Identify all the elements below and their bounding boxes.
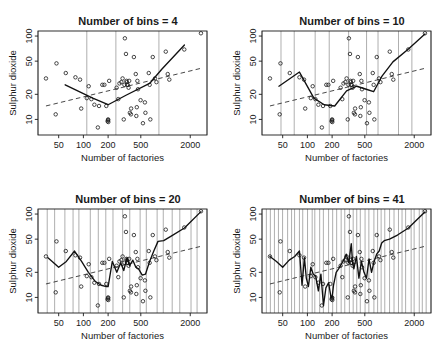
data-point [371,71,375,75]
data-point [144,111,148,115]
x-axis-label: Number of factories [305,152,388,163]
binned-fit-line [279,34,425,106]
x-tick-label: 100 [300,140,315,150]
data-point [279,62,283,66]
data-point [279,240,283,244]
data-point [379,258,383,262]
data-point [303,285,307,289]
x-tick-label: 500 [133,318,148,328]
data-point [317,103,321,107]
panel-1-points [44,32,202,130]
y-tick-label: 50 [248,234,258,244]
x-tick-label: 500 [357,318,372,328]
panel-title: Number of bins = 41 [299,193,404,205]
figure-panel-grid: 501002005002000102050100Number of factor… [0,0,447,355]
data-point [346,296,350,300]
data-point [166,250,170,254]
panel-3: 501002005002000102050100Number of factor… [7,193,207,341]
data-point [359,105,363,109]
y-tick-label: 50 [24,56,34,66]
y-tick-label: 100 [24,207,34,222]
x-tick-label: 200 [101,140,116,150]
data-point [155,258,159,262]
data-point [288,249,292,253]
data-point [107,257,111,261]
data-point [311,84,315,88]
y-tick-label: 20 [24,267,34,277]
data-point [199,32,203,36]
data-point [358,72,362,76]
data-point [164,228,168,232]
y-tick-label: 20 [248,89,258,99]
data-point [373,296,377,300]
data-point [320,126,324,130]
panel-2-points [268,32,426,130]
y-tick-label: 10 [248,292,258,302]
data-point [168,256,172,260]
data-point [87,262,91,266]
x-axis-label: Number of factories [305,330,388,341]
y-tick-label: 100 [248,207,258,222]
data-point [345,77,349,81]
x-tick-label: 200 [101,318,116,328]
data-point [392,78,396,82]
y-tick-label: 100 [248,29,258,44]
data-point [132,55,136,59]
data-point [365,299,369,303]
data-point [123,215,127,219]
x-tick-label: 50 [278,140,288,150]
data-point [135,105,139,109]
data-point [155,80,159,84]
data-point [168,78,172,82]
data-point [353,285,357,289]
data-point [135,114,139,118]
y-tick-label: 50 [24,234,34,244]
y-tick-label: 10 [24,292,34,302]
data-point [54,113,58,117]
x-tick-label: 2000 [180,140,200,150]
x-tick-label: 500 [133,140,148,150]
data-point [141,121,145,125]
data-point [368,111,372,115]
y-tick-label: 50 [248,56,258,66]
data-point [311,262,315,266]
linear-trend-line [270,68,425,106]
panel-2: 501002005002000102050100Number of factor… [231,15,431,163]
data-point [164,50,168,54]
linear-trend-line [46,246,201,284]
data-point [359,114,363,118]
data-point [331,257,335,261]
data-point [97,104,101,108]
data-point [85,274,89,278]
data-point [147,249,151,253]
data-point [166,72,170,76]
data-point [183,48,187,52]
data-point [298,76,302,80]
data-point [388,50,392,54]
data-point [141,299,145,303]
data-point [55,62,59,66]
panel-1: 501002005002000102050100Number of factor… [7,15,207,163]
y-axis-label: Sulphur dioxide [7,228,18,294]
y-tick-label: 10 [248,114,258,124]
y-tick-label: 100 [24,29,34,44]
x-axis-label: Number of factories [81,330,164,341]
data-point [123,37,127,41]
data-point [363,98,367,102]
data-point [139,276,143,280]
binned-fit-line [48,212,201,287]
x-tick-label: 200 [325,318,340,328]
data-point [134,72,138,76]
x-tick-label: 500 [357,140,372,150]
x-tick-label: 50 [278,318,288,328]
data-point [64,71,68,75]
data-point [368,289,372,293]
data-point [135,292,139,296]
data-point [365,121,369,125]
y-axis-label: Sulphur dioxide [231,50,242,116]
data-point [79,285,83,289]
data-point [358,250,362,254]
data-point [55,240,59,244]
data-point [390,72,394,76]
data-point [78,78,82,82]
